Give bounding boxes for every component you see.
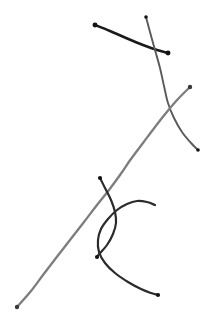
stroke-3-long-sweep-start-dot [188, 85, 192, 89]
stroke-2-descending-curve-start-dot [144, 15, 148, 19]
canvas-background [0, 0, 214, 323]
sketch-canvas [0, 0, 214, 323]
stroke-4-short-bow-end-dot [95, 255, 99, 259]
stroke-2-descending-curve-end-dot [196, 148, 200, 152]
stroke-3-long-sweep-end-dot [15, 305, 19, 309]
stroke-1-short-straight-end-dot [166, 51, 171, 56]
stroke-4-short-bow-start-dot [98, 176, 102, 180]
strokes-svg [0, 0, 214, 323]
stroke-1-short-straight-start-dot [93, 23, 98, 28]
stroke-5-hook-arc-end-dot [156, 293, 160, 297]
